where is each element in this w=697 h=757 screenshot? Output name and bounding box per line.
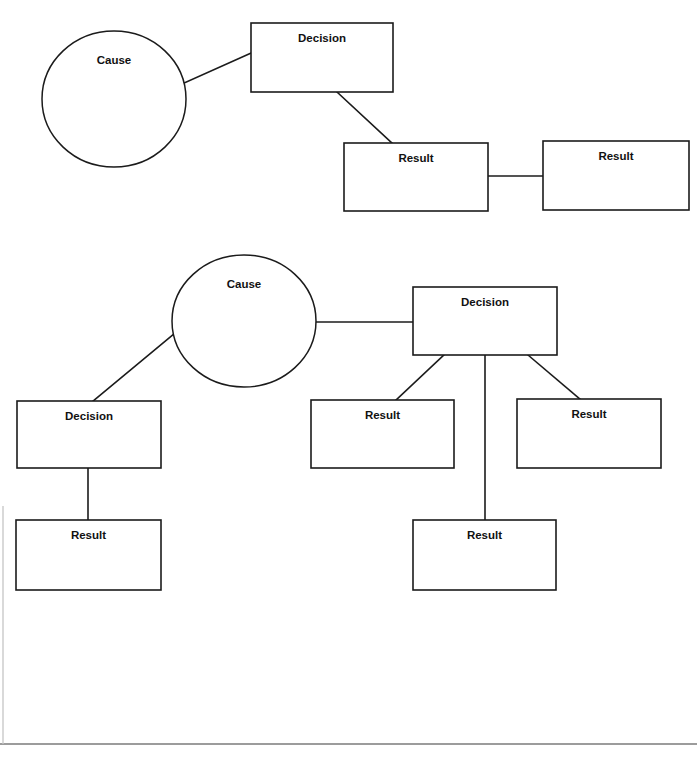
- node-bot-result-mid[interactable]: Result: [311, 400, 454, 468]
- node-bot-cause[interactable]: Cause: [172, 255, 316, 387]
- ellipse-shape: [172, 255, 316, 387]
- node-label: Result: [71, 529, 106, 541]
- node-bot-result-left[interactable]: Result: [16, 520, 161, 590]
- node-label: Result: [365, 409, 400, 421]
- node-label: Result: [598, 150, 633, 162]
- connector-top-decision-to-top-result-1: [337, 92, 392, 143]
- node-layer: CauseDecisionResultResultCauseDecisionDe…: [16, 23, 689, 590]
- node-label: Decision: [461, 296, 509, 308]
- node-label: Result: [398, 152, 433, 164]
- node-bot-result-btm[interactable]: Result: [413, 520, 556, 590]
- node-label: Decision: [298, 32, 346, 44]
- node-label: Decision: [65, 410, 113, 422]
- diagram-canvas: CauseDecisionResultResultCauseDecisionDe…: [0, 0, 697, 757]
- node-top-cause[interactable]: Cause: [42, 31, 186, 167]
- node-label: Cause: [227, 278, 262, 290]
- node-top-result-2[interactable]: Result: [543, 141, 689, 210]
- node-top-result-1[interactable]: Result: [344, 143, 488, 211]
- node-bot-decision-r[interactable]: Decision: [413, 287, 557, 355]
- connector-bot-decision-r-to-bot-result-mid: [396, 355, 444, 400]
- node-label: Result: [571, 408, 606, 420]
- node-bot-result-rt[interactable]: Result: [517, 399, 661, 468]
- connector-top-cause-to-top-decision: [182, 53, 251, 84]
- node-label: Cause: [97, 54, 132, 66]
- connector-bot-decision-r-to-bot-result-rt: [528, 355, 580, 399]
- ellipse-shape: [42, 31, 186, 167]
- node-label: Result: [467, 529, 502, 541]
- node-top-decision[interactable]: Decision: [251, 23, 393, 92]
- connector-bot-cause-to-bot-decision-l: [93, 334, 174, 401]
- node-bot-decision-l[interactable]: Decision: [17, 401, 161, 468]
